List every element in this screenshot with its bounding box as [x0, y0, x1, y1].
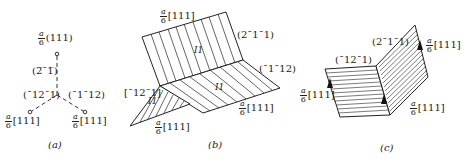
panel-b-top-vector: a6[111]: [160, 8, 195, 25]
panel-a-node: [28, 52, 87, 114]
panel-a-vertical-plane: (2̅¯1̅): [32, 66, 58, 76]
panel-a-left-plane: (¯12¯1): [23, 90, 60, 100]
panel-c-left-vector: a6[111]: [300, 87, 335, 104]
panel-a-caption: (a): [48, 139, 62, 150]
panel-a-top-vector: a6(111): [38, 30, 73, 47]
panel-b-caption: (b): [208, 139, 222, 150]
panel-c-right-bottom-vector: a6[111]: [410, 100, 445, 117]
panel-a-right-plane: (¯1¯12): [68, 90, 105, 100]
panel-b-upper-plane: (2¯1¯1): [237, 30, 274, 40]
panel-a-left-vector: a6[111]: [5, 113, 40, 130]
diagram-canvas: [0, 0, 470, 164]
panel-b-mid-vector: a6[111]: [239, 100, 274, 117]
panel-c-right-top-vector: a6[111]: [426, 37, 461, 54]
panel-a-right-vector: a6[111]: [72, 113, 107, 130]
panel-c-left-plane: (¯12¯1): [335, 55, 372, 65]
panel-b-fault-middle: I1: [215, 83, 224, 92]
panel-b-fault-lower: I1: [148, 97, 157, 106]
panel-c-right-plane: (2¯1¯1): [372, 37, 409, 47]
panel-b-fault-upper: I1: [194, 46, 203, 55]
panel-c-caption: (c): [380, 142, 393, 153]
panel-b-bottom-vector: a6[111]: [155, 119, 190, 136]
panel-b-right-plane: (¯1¯12): [259, 64, 296, 74]
